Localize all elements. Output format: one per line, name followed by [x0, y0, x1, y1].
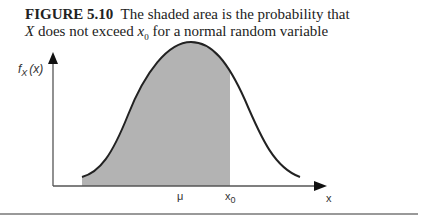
y-axis-label: fX(x)	[18, 62, 43, 78]
mu-label: μ	[177, 190, 183, 202]
x-axis-label: x	[326, 192, 332, 204]
y-axis-arrow-icon	[48, 52, 58, 64]
normal-distribution-chart: fX(x) μ x0 x	[0, 0, 433, 218]
bottom-rule	[0, 213, 418, 215]
x-axis-arrow-icon	[314, 181, 327, 191]
x0-label: x0	[225, 190, 236, 205]
